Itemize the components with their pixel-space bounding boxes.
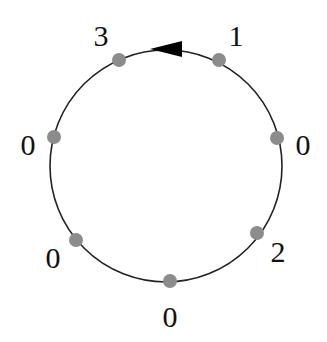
node-label: 0 (21, 128, 36, 161)
node-label: 2 (271, 235, 286, 268)
node-label: 0 (163, 300, 178, 333)
node-dot (69, 233, 83, 247)
node-label: 0 (46, 241, 61, 274)
node-label: 3 (94, 19, 109, 52)
node-label: 1 (229, 19, 244, 52)
node-dot (163, 274, 177, 288)
node-dot (112, 53, 126, 67)
cycle-circle (50, 50, 282, 282)
circular-diagram: 1020003 (0, 0, 327, 342)
node-dot (250, 226, 264, 240)
node-dot (47, 130, 61, 144)
direction-arrow-icon (150, 41, 182, 57)
node-label: 0 (296, 128, 311, 161)
node-dot (270, 131, 284, 145)
node-dot (212, 53, 226, 67)
